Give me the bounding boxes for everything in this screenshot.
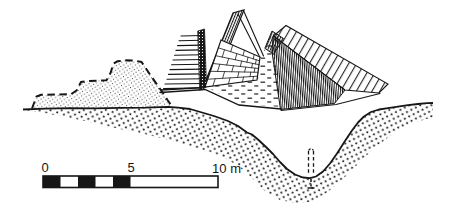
rampart-revetment-dark-strip xyxy=(198,29,207,90)
scale-label-0: 0 xyxy=(41,160,48,175)
section-diagram: 0 5 10 m xyxy=(0,0,457,207)
scale-bar-segment-black-2 xyxy=(78,176,96,188)
scale-bar-segment-black-3 xyxy=(113,176,131,188)
post-slot-top-cap xyxy=(309,149,314,151)
scale-bar-segment-black-1 xyxy=(43,176,61,188)
scale-bar: 0 5 10 m xyxy=(41,160,241,188)
inset-3d-reconstruction xyxy=(160,10,388,111)
scale-label-5: 5 xyxy=(127,160,134,175)
counterscarp-bank xyxy=(265,26,388,111)
scale-label-10m: 10 m xyxy=(212,161,241,176)
rampart-tail-hachures xyxy=(164,36,204,89)
rampart-mound-fill xyxy=(32,60,172,108)
masonry-wall-face xyxy=(205,40,260,87)
figure-canvas: 0 5 10 m xyxy=(0,0,457,207)
